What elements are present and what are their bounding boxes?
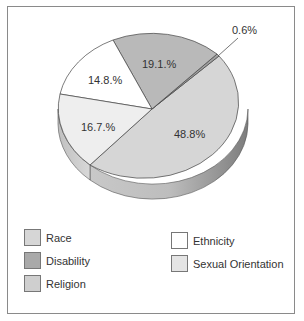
- legend-label-religion: Religion: [46, 278, 86, 290]
- legend-label-race: Race: [46, 232, 72, 244]
- legend-label-ethnicity: Ethnicity: [193, 235, 235, 247]
- label-race: 48.8%: [174, 128, 205, 140]
- legend-item-orientation: Sexual Orientation: [171, 255, 284, 272]
- legend-swatch-race: [24, 229, 41, 246]
- legend-item-disability: Disability: [24, 252, 90, 269]
- legend-item-religion: Religion: [24, 275, 86, 292]
- legend-item-race: Race: [24, 229, 72, 246]
- label-ethnicity: 14.8.%: [88, 74, 122, 86]
- label-orientation: 0.6%: [232, 24, 257, 36]
- legend-swatch-disability: [24, 252, 41, 269]
- pie-chart: [0, 0, 304, 321]
- leader-line: [218, 38, 238, 56]
- legend-item-ethnicity: Ethnicity: [171, 232, 235, 249]
- label-disability: 19.1.%: [142, 58, 176, 70]
- legend-swatch-orientation: [171, 255, 188, 272]
- legend-label-disability: Disability: [46, 255, 90, 267]
- legend-swatch-religion: [24, 275, 41, 292]
- legend-label-orientation: Sexual Orientation: [193, 258, 284, 270]
- legend-swatch-ethnicity: [171, 232, 188, 249]
- label-religion: 16.7.%: [81, 121, 115, 133]
